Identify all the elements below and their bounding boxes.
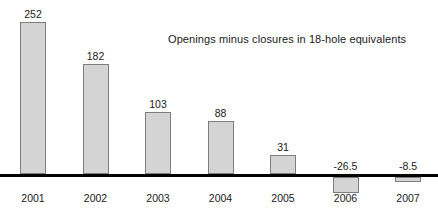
bar-2004[interactable] <box>208 121 234 174</box>
bar-2006[interactable] <box>333 177 359 193</box>
bar-2003[interactable] <box>145 112 171 174</box>
bar-2007[interactable] <box>395 177 421 182</box>
bar-2002[interactable] <box>83 64 109 174</box>
bar-chart: Openings minus closures in 18-hole equiv… <box>0 0 438 216</box>
value-label-2002: 182 <box>66 50 126 62</box>
bar-2005[interactable] <box>270 155 296 174</box>
category-label-2007: 2007 <box>378 192 438 204</box>
category-label-2005: 2005 <box>253 192 313 204</box>
value-label-2007: -8.5 <box>378 160 438 172</box>
value-label-2004: 88 <box>191 107 251 119</box>
category-label-2002: 2002 <box>66 192 126 204</box>
value-label-2006: -26.5 <box>316 160 376 172</box>
category-label-2006: 2006 <box>316 192 376 204</box>
value-label-2005: 31 <box>253 141 313 153</box>
category-label-2001: 2001 <box>3 192 63 204</box>
plot-area: 252200118220021032003882004312005-26.520… <box>0 0 438 216</box>
category-label-2004: 2004 <box>191 192 251 204</box>
value-label-2003: 103 <box>128 98 188 110</box>
category-label-2003: 2003 <box>128 192 188 204</box>
bar-2001[interactable] <box>20 22 46 174</box>
zero-axis-line <box>0 174 438 177</box>
value-label-2001: 252 <box>3 8 63 20</box>
